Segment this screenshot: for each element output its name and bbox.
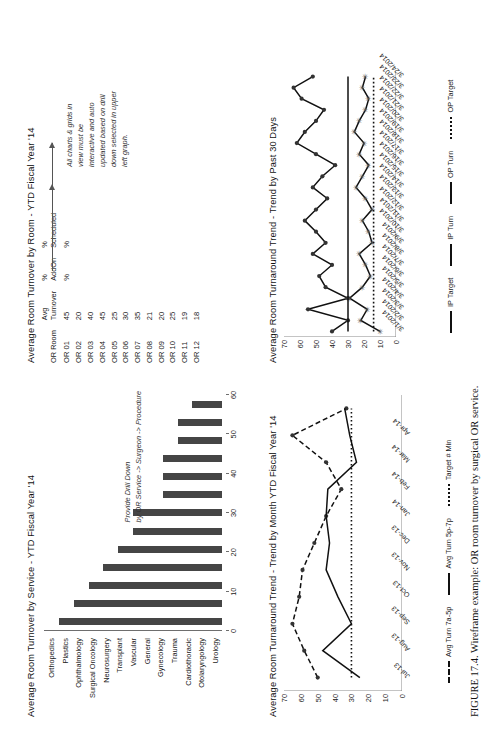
bar-item[interactable] [44,522,222,540]
legend-swatch-icon [450,117,452,139]
data-point[interactable] [306,307,310,311]
legend-item[interactable]: OP Target [446,80,455,139]
legend-label: Avg Turn 5p-7p [444,518,453,568]
bar[interactable] [118,546,222,553]
data-point[interactable]: ✳ [361,261,370,268]
data-point[interactable] [324,241,328,245]
data-point[interactable] [322,108,326,112]
data-point[interactable] [312,541,316,545]
data-point[interactable] [317,274,321,278]
data-point[interactable]: ✳ [355,250,364,257]
data-point[interactable]: ✳ [361,106,370,113]
table-row[interactable]: OR 1025 [167,203,179,363]
legend-item[interactable]: IP Turn [446,216,455,266]
data-point[interactable]: ✳ [356,317,365,324]
table-row[interactable]: OR 0340 [85,203,97,363]
bar-item[interactable] [44,595,222,613]
y-axis-label: 30 [347,694,356,702]
bar[interactable] [178,437,223,444]
bar-item[interactable] [44,540,222,558]
data-point[interactable] [320,174,324,178]
data-point[interactable]: ✳ [364,95,373,102]
table-row[interactable]: OR 1119 [179,203,191,363]
data-point[interactable]: ✳ [364,228,373,235]
data-point[interactable]: ✳ [350,128,359,135]
data-point[interactable] [290,433,294,437]
legend-item[interactable]: Target # Min [444,440,453,507]
data-point[interactable] [333,163,337,167]
bar[interactable] [178,419,223,426]
bar[interactable] [133,528,222,535]
data-point[interactable] [330,263,334,267]
bar[interactable] [133,509,222,516]
data-point[interactable] [311,74,315,78]
data-point[interactable] [325,196,329,200]
data-point[interactable] [297,595,301,599]
table-row[interactable]: OR 1218 [191,203,203,363]
data-point[interactable] [303,130,307,134]
data-point[interactable] [324,285,328,289]
data-point[interactable]: ✳ [363,306,372,313]
data-point[interactable] [330,329,334,333]
table-header-cell[interactable]: OR Room [40,320,61,363]
data-point[interactable]: ✳ [355,117,364,124]
legend-item[interactable]: OP Turn [446,151,455,204]
bar[interactable] [163,491,222,498]
table-row[interactable]: OR 0525 [108,203,120,363]
data-point[interactable] [290,622,294,626]
bar[interactable] [163,455,222,462]
data-point[interactable]: ✳ [376,328,385,335]
data-point[interactable] [303,219,307,223]
bar[interactable] [89,582,223,589]
table-header-cell[interactable]: AvgTurnover [40,281,61,320]
legend-item[interactable]: Avg Turn 5p-7p [444,518,453,594]
bar-item[interactable] [44,558,222,576]
table-row[interactable]: OR 0445 [96,203,108,363]
data-point[interactable]: ✳ [358,217,367,224]
data-point[interactable]: ✳ [352,184,361,191]
bar[interactable] [59,618,222,625]
data-point[interactable]: ✳ [361,73,370,80]
table-header-cell[interactable]: %AddOn [40,248,61,281]
table-row[interactable]: OR 0920 [155,203,167,363]
table-row[interactable]: OR 0821 [143,203,155,363]
bar-item[interactable] [44,613,222,631]
data-point[interactable] [300,97,304,101]
bar[interactable] [163,473,222,480]
data-point[interactable] [324,460,328,464]
data-point[interactable]: ✳ [358,173,367,180]
data-point[interactable] [314,207,318,211]
data-point[interactable]: ✳ [358,284,367,291]
data-point[interactable] [295,141,299,145]
table-row[interactable]: OR 0735 [132,203,144,363]
data-point[interactable]: ✳ [360,140,369,147]
data-point[interactable] [339,487,343,491]
data-point[interactable] [316,675,320,679]
bar[interactable] [192,401,222,408]
data-point[interactable] [314,230,318,234]
data-point[interactable]: ✳ [361,195,370,202]
data-point[interactable] [300,568,304,572]
bar[interactable] [103,564,222,571]
legend-item[interactable]: IP Target [446,278,455,333]
data-point[interactable] [311,252,315,256]
table-row[interactable]: OR 0220 [73,203,85,363]
data-point[interactable] [292,86,296,90]
table-header-cell[interactable]: %Scheduled [40,203,61,248]
table-row[interactable]: OR 0145%% [61,203,73,363]
data-point[interactable]: ✳ [345,295,354,302]
bar[interactable] [74,600,222,607]
table-row[interactable]: OR 0630 [120,203,132,363]
data-point[interactable]: ✳ [368,239,377,246]
data-point[interactable]: ✳ [355,151,364,158]
data-point[interactable] [314,119,318,123]
data-point[interactable] [311,185,315,189]
data-point[interactable] [302,649,306,653]
bar-item[interactable] [44,577,222,595]
data-point[interactable]: ✳ [368,206,377,213]
data-point[interactable] [314,152,318,156]
data-point[interactable]: ✳ [364,162,373,169]
table-cell-room: OR 10 [167,320,179,363]
data-point[interactable]: ✳ [358,84,367,91]
legend-item[interactable]: Avg Turn 7a-5p [444,607,453,683]
